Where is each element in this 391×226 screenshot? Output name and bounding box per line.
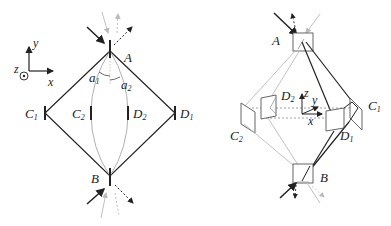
node-label-A-3d: A <box>271 33 280 48</box>
node-label-B: B <box>91 171 99 186</box>
light-beam-out-bottom <box>115 193 119 216</box>
node-label-C1-3d: C <box>368 98 377 113</box>
dark-beam-out-A-3d <box>292 14 296 31</box>
node-label-C1: C <box>25 106 34 121</box>
svg-text:a1: a1 <box>89 70 100 86</box>
light-beam-in-bottom <box>101 193 106 218</box>
svg-text:D2: D2 <box>280 88 294 104</box>
interferometer-diagram: y x z a1 a2 A B C1 C2 D2 D1 <box>0 0 391 226</box>
dark-beam-in-B <box>87 189 104 204</box>
svg-text:C1: C1 <box>368 98 381 114</box>
dark-beam-in-A <box>87 27 104 43</box>
right-axes: z y x <box>302 86 322 128</box>
mirror-D2-3d <box>261 95 276 119</box>
left-diagram: y x z a1 a2 A B C1 C2 D2 D1 <box>13 12 193 218</box>
outer-path-dark <box>45 51 175 176</box>
angle-arc-a1 <box>99 72 110 76</box>
svg-text:D1: D1 <box>339 128 353 144</box>
node-label-C2: C <box>72 106 81 121</box>
mirror-C2-3d <box>241 103 255 133</box>
svg-text:C2: C2 <box>230 128 243 144</box>
node-label-D1-3d: D <box>339 128 350 143</box>
angle-arc-a2 <box>110 77 120 80</box>
axis-label-z-3d: z <box>303 86 309 100</box>
svg-text:D2: D2 <box>132 106 146 122</box>
node-label-D1: D <box>179 106 190 121</box>
svg-text:C1: C1 <box>25 106 38 122</box>
node-label-D2: D <box>132 106 143 121</box>
mirror-C1-3d <box>350 98 362 130</box>
dark-beam-out-A <box>114 27 132 45</box>
svg-text:a2: a2 <box>121 77 132 93</box>
axis-label-y: y <box>32 36 39 50</box>
light-beam-in-top <box>102 12 108 33</box>
axis-label-z: z <box>13 62 19 76</box>
svg-text:C2: C2 <box>72 106 85 122</box>
light-beam-out-top <box>117 14 118 33</box>
node-label-A: A <box>123 50 132 65</box>
right-diagram: z y x A B C1 C2 D2 D1 <box>230 13 381 203</box>
left-axes: y x z <box>13 36 54 89</box>
node-label-D2-3d: D <box>280 88 291 103</box>
axis-label-y-3d: y <box>311 93 318 107</box>
svg-text:D1: D1 <box>179 106 193 122</box>
inner-path-D2 <box>110 51 128 176</box>
dark-beam-out-B <box>115 185 133 203</box>
axis-label-x-3d: x <box>307 114 314 128</box>
light-beam-B-3d <box>307 183 320 203</box>
axis-label-x: x <box>47 75 54 89</box>
light-beam-A-3d <box>306 14 320 33</box>
dark-beam-in-A-3d <box>274 13 297 35</box>
beam-splitter-cube-A <box>293 33 313 51</box>
node-label-C2-3d: C <box>230 128 239 143</box>
dark-beam-out-B-3d <box>295 185 296 198</box>
node-label-B-3d: B <box>320 170 328 185</box>
dark-beam-in-B-3d <box>280 183 296 198</box>
